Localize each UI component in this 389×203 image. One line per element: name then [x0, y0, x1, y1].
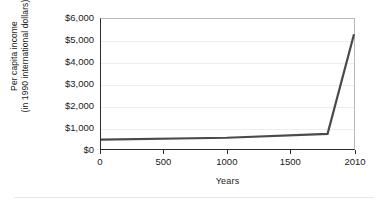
y-axis-title: Per capita income (in 1990 international…	[9, 0, 45, 121]
y-tick-label: $3,000	[44, 79, 94, 89]
plot-area	[100, 18, 355, 150]
y-axis-title-line-1: Per capita income	[9, 0, 20, 121]
x-tick-label: 1000	[204, 156, 250, 167]
page-divider	[14, 197, 374, 198]
x-tick-mark	[100, 150, 101, 154]
y-tick-label: $1,000	[44, 123, 94, 133]
y-tick-label: $6,000	[44, 13, 94, 23]
series-line-per-capita-income	[101, 34, 354, 140]
y-tick-label: $5,000	[44, 35, 94, 45]
x-tick-mark	[163, 150, 164, 154]
x-tick-label: 2010	[332, 156, 378, 167]
x-tick-label: 500	[140, 156, 186, 167]
x-tick-mark	[355, 150, 356, 154]
chart-figure: Per capita income (in 1990 international…	[0, 0, 389, 203]
x-tick-mark	[290, 150, 291, 154]
x-axis-title: Years	[100, 176, 355, 186]
x-tick-mark	[227, 150, 228, 154]
y-axis-tick-labels: $0$1,000$2,000$3,000$4,000$5,000$6,000	[44, 14, 94, 154]
series-line-chart	[101, 19, 354, 149]
y-tick-label: $4,000	[44, 57, 94, 67]
x-tick-label: 1500	[267, 156, 313, 167]
y-axis-title-line-2: (in 1990 international dollars)	[20, 0, 31, 121]
y-tick-label: $0	[44, 145, 94, 155]
x-tick-label: 0	[77, 156, 123, 167]
y-tick-label: $2,000	[44, 101, 94, 111]
